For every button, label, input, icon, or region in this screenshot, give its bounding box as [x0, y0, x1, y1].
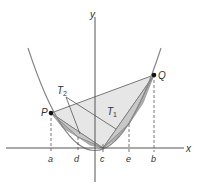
tick-label-c: c [100, 154, 105, 164]
tick-label-b: b [151, 154, 156, 164]
tick-label-e: e [126, 154, 131, 164]
triangle-T1 [51, 75, 154, 148]
y-axis-label: y [89, 9, 96, 20]
point-Q [152, 73, 157, 78]
x-axis-label: x [185, 143, 192, 154]
point-P [49, 111, 54, 116]
label-T2: T2 [57, 85, 67, 97]
parabola-triangle-diagram: y x P Q T2 T1 a d c e b [0, 0, 199, 189]
tick-label-d: d [74, 154, 80, 164]
tick-label-a: a [48, 154, 53, 164]
label-Q: Q [158, 70, 166, 81]
label-P: P [41, 107, 48, 118]
